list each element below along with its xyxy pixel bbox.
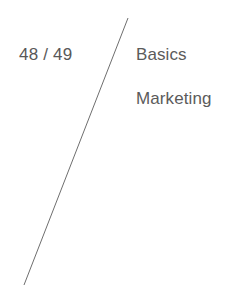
section-list: Basics Marketing bbox=[136, 44, 248, 109]
diagonal-rule-icon bbox=[0, 0, 248, 285]
section-item-marketing[interactable]: Marketing bbox=[136, 88, 248, 109]
section-item-basics[interactable]: Basics bbox=[136, 44, 248, 65]
slide-page: 48 / 49 Basics Marketing bbox=[0, 0, 248, 285]
page-number: 48 / 49 bbox=[19, 45, 72, 65]
